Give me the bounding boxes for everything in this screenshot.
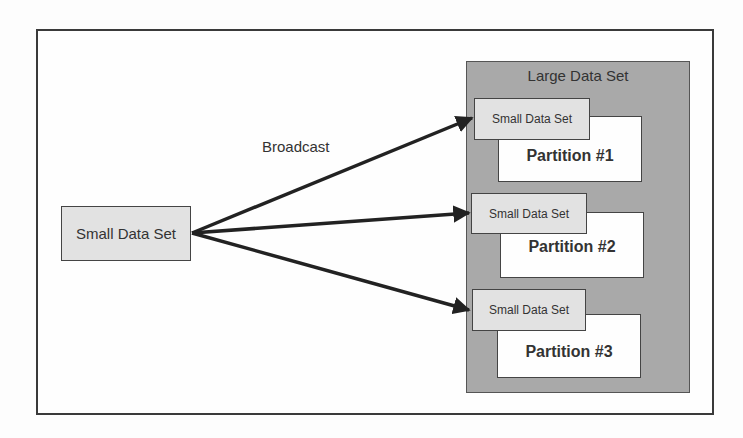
arrows-layer (0, 0, 743, 438)
arrow-to-partition-3 (192, 233, 469, 310)
